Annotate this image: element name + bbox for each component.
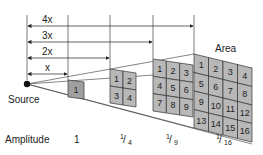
panel-2x: 1234: [110, 69, 136, 107]
cell-number: 6: [213, 82, 218, 92]
cell-number: 5: [170, 83, 175, 93]
cell-number: 2: [170, 66, 175, 76]
cell-number: 5: [199, 79, 204, 89]
area-panels: 1123412345678912345678910111213141516: [68, 54, 252, 142]
cell-number: 16: [240, 126, 250, 136]
label-3x: 3x: [42, 30, 53, 41]
cell-number: 15: [225, 123, 235, 133]
cell-number: 2: [213, 64, 218, 74]
amplitude-value-1: 1: [74, 134, 80, 145]
panel-4x: 12345678910111213141516: [194, 54, 252, 142]
cell-number: 1: [114, 74, 119, 84]
svg-text:4: 4: [128, 139, 132, 146]
panel-1x: 1: [68, 80, 84, 99]
svg-text:/: /: [219, 134, 222, 145]
cell-number: 4: [157, 81, 162, 91]
source-dot: [24, 81, 30, 87]
panel-3x: 123456789: [153, 59, 193, 117]
cell-number: 7: [157, 98, 162, 108]
label-x: x: [45, 62, 50, 73]
cell-number: 3: [228, 67, 233, 77]
svg-text:/: /: [123, 134, 126, 145]
cell-number: 10: [211, 101, 221, 111]
label-2x: 2x: [42, 46, 53, 57]
amplitude-label: Amplitude: [5, 134, 50, 145]
cell-number: 1: [199, 60, 204, 70]
amplitude-value-1-4: 1 / 4: [120, 133, 132, 146]
amplitude-value-1-9: 1 / 9: [166, 133, 178, 146]
cell-number: 2: [127, 76, 132, 86]
cell-number: 6: [184, 85, 189, 95]
cell-number: 14: [211, 119, 221, 129]
cell-number: 7: [228, 86, 233, 96]
inverse-square-diagram: 4x 3x 2x x 11234123456789123456789101112…: [0, 0, 263, 155]
cell-number: 4: [242, 71, 247, 81]
cell-number: 12: [240, 108, 250, 118]
distance-labels: 4x 3x 2x x: [42, 14, 53, 73]
cell-number: 13: [196, 116, 206, 126]
svg-text:/: /: [169, 134, 172, 145]
cell-number: 9: [184, 102, 189, 112]
cell-number: 9: [199, 97, 204, 107]
cell-number: 11: [226, 104, 235, 114]
cell-number: 1: [73, 85, 78, 95]
svg-text:16: 16: [224, 139, 232, 146]
amplitude-row: Amplitude 1 1 / 4 1 / 9 1 / 16: [5, 133, 232, 146]
cell-number: 3: [184, 68, 189, 78]
cell-number: 8: [170, 100, 175, 110]
area-label: Area: [215, 43, 237, 54]
cell-number: 4: [127, 93, 132, 103]
cell-number: 8: [242, 89, 247, 99]
svg-text:9: 9: [174, 139, 178, 146]
source-label: Source: [8, 94, 40, 105]
cell-number: 1: [157, 64, 162, 74]
label-4x: 4x: [42, 14, 53, 25]
cell-number: 3: [114, 91, 119, 101]
